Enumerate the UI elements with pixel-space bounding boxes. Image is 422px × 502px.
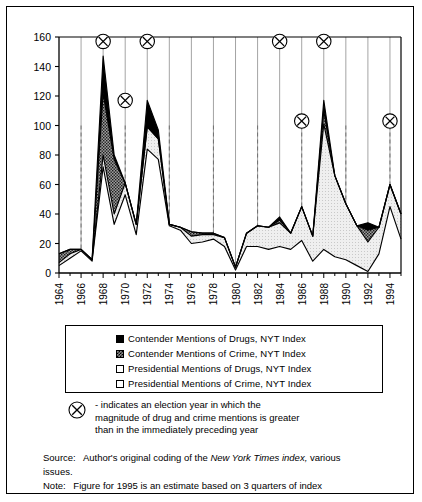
legend-swatch-presidential-crime — [116, 380, 124, 388]
election-note-line-2: magnitude of drug and crime mentions is … — [95, 412, 299, 425]
legend-swatch-presidential-drugs — [116, 365, 124, 373]
circled-x-marker-1970 — [118, 93, 132, 107]
legend-item: Presidential Mentions of Drugs, NYT Inde… — [116, 361, 382, 376]
svg-text:80: 80 — [39, 149, 51, 161]
legend-label: Contender Mentions of Crime, NYT Index — [128, 348, 306, 359]
svg-text:1980: 1980 — [231, 283, 242, 306]
svg-text:100: 100 — [33, 120, 51, 132]
chart-legend: Contender Mentions of Drugs, NYT Index C… — [65, 325, 383, 393]
source-italic-title: New York Times index, — [210, 452, 307, 463]
legend-swatch-contender-drugs — [116, 335, 124, 343]
svg-text:20: 20 — [39, 238, 51, 250]
source-text-b: various — [310, 452, 341, 463]
figure-frame: 0204060801001201401601964196619681970197… — [6, 6, 414, 494]
election-note-line-3: than in the immediately preceding year — [95, 424, 299, 437]
svg-text:1974: 1974 — [164, 283, 175, 306]
svg-text:1990: 1990 — [341, 283, 352, 306]
note-prefix: Note: — [43, 480, 66, 491]
legend-item: Contender Mentions of Drugs, NYT Index — [116, 331, 382, 346]
svg-text:1988: 1988 — [319, 283, 330, 306]
svg-text:1968: 1968 — [98, 283, 109, 306]
circled-x-marker-1994 — [383, 114, 397, 128]
svg-text:40: 40 — [39, 208, 51, 220]
svg-text:1986: 1986 — [297, 283, 308, 306]
svg-text:1972: 1972 — [142, 283, 153, 306]
svg-text:1966: 1966 — [76, 283, 87, 306]
svg-text:1984: 1984 — [275, 283, 286, 306]
svg-text:1978: 1978 — [208, 283, 219, 306]
circled-x-marker-1972 — [140, 34, 154, 48]
legend-label: Presidential Mentions of Drugs, NYT Inde… — [128, 363, 311, 374]
circled-x-marker-1986 — [295, 114, 309, 128]
stacked-area-chart: 0204060801001201401601964196619681970197… — [7, 11, 415, 311]
svg-text:1982: 1982 — [253, 283, 264, 306]
svg-text:1994: 1994 — [385, 283, 396, 306]
chart-area: 0204060801001201401601964196619681970197… — [7, 11, 415, 311]
svg-text:160: 160 — [33, 31, 51, 43]
source-prefix: Source: — [43, 452, 76, 463]
source-text-a: Author's original coding of the — [83, 452, 208, 463]
svg-text:140: 140 — [33, 61, 51, 73]
svg-text:1970: 1970 — [120, 283, 131, 306]
legend-label: Contender Mentions of Drugs, NYT Index — [128, 333, 306, 344]
source-line: Source: Author's original coding of the … — [43, 451, 399, 464]
note-line: Note: Figure for 1995 is an estimate bas… — [43, 479, 399, 492]
figure-footnotes: Source: Author's original coding of the … — [43, 451, 399, 493]
legend-swatch-contender-crime — [116, 350, 124, 358]
circled-x-marker-1984 — [272, 34, 286, 48]
svg-text:0: 0 — [45, 267, 51, 279]
election-year-note: - indicates an election year in which th… — [67, 399, 397, 437]
svg-text:60: 60 — [39, 179, 51, 191]
legend-item: Contender Mentions of Crime, NYT Index — [116, 346, 382, 361]
circled-x-icon — [67, 400, 87, 420]
circled-x-marker-1968 — [96, 34, 110, 48]
source-line-2: issues. — [43, 465, 399, 478]
svg-text:1992: 1992 — [363, 283, 374, 306]
svg-text:1976: 1976 — [186, 283, 197, 306]
election-note-line-1: - indicates an election year in which th… — [95, 399, 299, 412]
note-text: Figure for 1995 is an estimate based on … — [73, 480, 322, 491]
circled-x-marker-1988 — [317, 34, 331, 48]
legend-item: Presidential Mentions of Crime, NYT Inde… — [116, 376, 382, 391]
svg-text:1964: 1964 — [54, 283, 65, 306]
legend-label: Presidential Mentions of Crime, NYT Inde… — [128, 378, 311, 389]
svg-text:120: 120 — [33, 90, 51, 102]
